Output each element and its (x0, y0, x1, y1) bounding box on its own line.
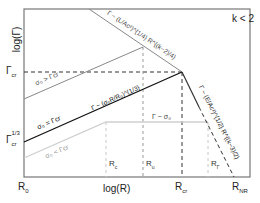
plateau-relation: Γ ~ σ₀ (152, 113, 171, 120)
x-axis-label: log(R) (103, 183, 130, 194)
x-tick-rnr: RNR (232, 181, 248, 194)
top-decay-line (89, 9, 182, 72)
y-tick-gamma-cr-third: Γ1/3cr (6, 134, 17, 147)
marker-rgamma: RΓ (211, 159, 220, 170)
y-tick-gamma-cr: Γcr (6, 65, 17, 78)
k-annotation: k < 2 (232, 13, 254, 24)
nonrel-decay-solid (182, 72, 199, 107)
marker-rc: Rc (109, 159, 117, 170)
marker-ru: Ru (146, 159, 155, 170)
sigma-equal-line (24, 72, 182, 142)
x-tick-rcr: Rcr (175, 181, 187, 194)
x-tick-r0: R0 (18, 181, 29, 194)
y-axis-label: log(Γ) (11, 20, 22, 60)
